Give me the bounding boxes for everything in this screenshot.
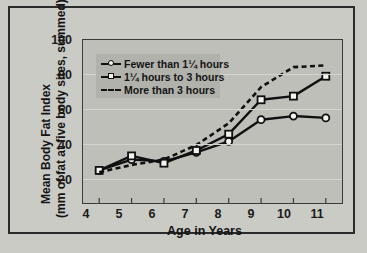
x-tick-label-9: 9 — [239, 208, 263, 221]
legend-label-0: Fewer than 1¼ hours — [124, 58, 229, 70]
data-point-s0-i7 — [322, 114, 329, 121]
data-point-s0-i5 — [258, 116, 265, 123]
data-point-s1-i5 — [258, 96, 265, 103]
legend-item-1: 1¼ hours to 3 hours — [101, 70, 215, 83]
x-tick-label-11: 11 — [305, 208, 329, 221]
chart-legend: Fewer than 1¼ hours 1¼ hours to 3 hours … — [96, 54, 220, 98]
figure-frame: Mean Body Fat Index (mm of fat at five b… — [8, 6, 355, 234]
data-point-s1-i6 — [290, 93, 297, 100]
legend-label-1: 1¼ hours to 3 hours — [124, 71, 224, 83]
x-tick-label-8: 8 — [206, 208, 230, 221]
legend-label-2: More than 3 hours — [124, 84, 215, 96]
gridline-60 — [83, 109, 342, 110]
legend-key-square-icon — [101, 71, 121, 82]
legend-key-circle-icon — [101, 58, 121, 69]
legend-item-0: Fewer than 1¼ hours — [101, 57, 215, 70]
data-point-s1-i4 — [225, 131, 232, 138]
x-tick-label-5: 5 — [107, 208, 131, 221]
x-tick-label-10: 10 — [272, 208, 296, 221]
data-point-s0-i6 — [290, 113, 297, 120]
legend-key-dashed-icon — [101, 84, 121, 95]
x-tick-label-7: 7 — [173, 208, 197, 221]
y-tick-label-40: 40 — [34, 139, 72, 152]
x-tick-label-6: 6 — [140, 208, 164, 221]
y-tick-label-20: 20 — [34, 174, 72, 187]
y-tick-label-80: 80 — [34, 69, 72, 82]
y-tick-label-100: 100 — [34, 34, 72, 47]
legend-item-2: More than 3 hours — [101, 83, 215, 96]
gridline-40 — [83, 144, 342, 145]
x-tick-label-4: 4 — [74, 208, 98, 221]
data-point-s1-i3 — [193, 147, 200, 154]
data-point-s1-i1 — [128, 152, 135, 159]
gridline-20 — [83, 179, 342, 180]
chart-figure: Mean Body Fat Index (mm of fat at five b… — [0, 0, 367, 253]
x-axis-title: Age in Years — [74, 224, 335, 238]
y-tick-label-60: 60 — [34, 104, 72, 117]
